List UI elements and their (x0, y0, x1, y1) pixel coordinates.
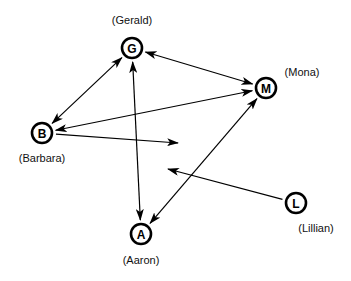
node-a: A (131, 224, 151, 244)
node-g: G (122, 38, 142, 58)
node-label-m: (Mona) (285, 66, 320, 78)
node-letter: G (127, 42, 136, 56)
edge-b-point (56, 134, 178, 143)
node-label-b: (Barbara) (19, 152, 65, 164)
edge-g-b (52, 58, 122, 124)
edge-l-point (168, 169, 282, 199)
node-m: M (256, 78, 276, 98)
node-label-g: (Gerald) (112, 14, 152, 26)
relationship-graph: GMBAL (0, 0, 351, 281)
node-label-l: (Lillian) (298, 222, 333, 234)
node-label-a: (Aaron) (123, 254, 160, 266)
node-letter: M (261, 82, 271, 96)
edge-g-m (145, 52, 252, 84)
edge-m-a (150, 99, 257, 224)
edge-m-b (56, 91, 253, 130)
node-letter: A (137, 228, 146, 242)
node-l: L (286, 193, 306, 213)
node-letter: B (38, 127, 47, 141)
edge-g-a (133, 62, 141, 220)
node-letter: L (292, 197, 299, 211)
node-b: B (32, 123, 52, 143)
